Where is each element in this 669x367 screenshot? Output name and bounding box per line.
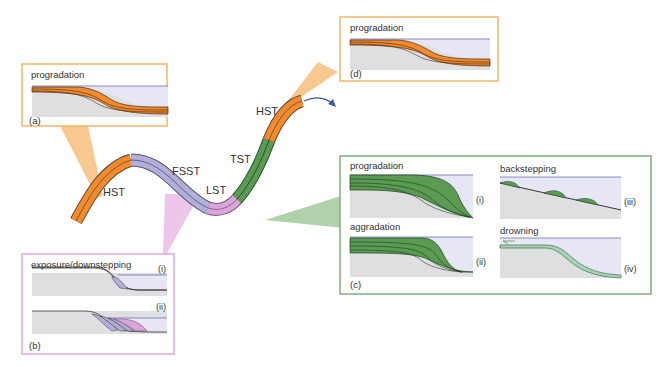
sub-title: aggradation — [350, 221, 400, 232]
arrowhead-icon — [328, 99, 336, 107]
sub-title: drowning — [500, 225, 539, 236]
continuation-arrow — [304, 98, 333, 104]
connector-c — [265, 195, 344, 228]
label-tst: TST — [230, 153, 251, 165]
panel-a: progradation (a) — [22, 64, 168, 126]
panel-c-tag: (c) — [350, 279, 361, 290]
sub-title: progradation — [350, 160, 403, 171]
panel-c: progradation (i) aggradation (ii) backst… — [340, 156, 651, 294]
numeral: (iv) — [624, 264, 637, 274]
systems-tract-diagram: HST FSST LST TST HST progradation (a) pr… — [0, 0, 669, 367]
sub-title: backstepping — [500, 163, 556, 174]
panel-d-title: progradation — [350, 22, 403, 33]
panel-a-tag: (a) — [29, 115, 41, 126]
label-hst-right: HST — [256, 105, 278, 117]
numeral: (ii) — [156, 302, 166, 312]
panel-b: exposure/downstepping (i) (ii) (b) — [22, 254, 174, 354]
numeral: (i) — [158, 264, 166, 274]
numeral: (ii) — [476, 257, 486, 267]
label-fsst: FSST — [172, 165, 200, 177]
numeral: (i) — [476, 195, 484, 205]
label-hst-left: HST — [103, 186, 125, 198]
panel-d-tag: (d) — [350, 68, 362, 79]
numeral: (iii) — [624, 197, 636, 207]
panel-d: progradation (d) — [340, 17, 498, 81]
label-lst: LST — [206, 184, 226, 196]
panel-a-title: progradation — [31, 69, 84, 80]
panel-b-tag: (b) — [29, 340, 41, 351]
